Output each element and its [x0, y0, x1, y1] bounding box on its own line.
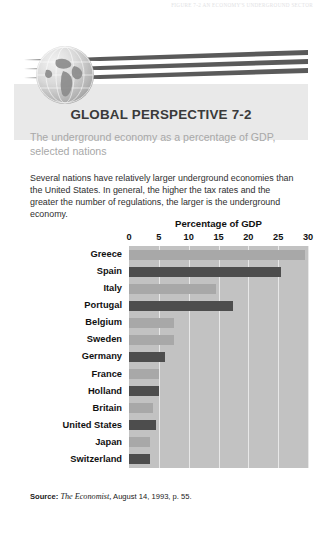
bar-label-spain: Spain	[14, 263, 122, 280]
bar-row: Belgium	[14, 314, 308, 331]
bar-label-greece: Greece	[14, 246, 122, 263]
bar-row: United States	[14, 417, 308, 434]
globe-icon	[36, 46, 94, 104]
page-title: GLOBAL PERSPECTIVE 7-2	[14, 107, 308, 122]
bar-italy	[129, 284, 216, 294]
bar-chart: Percentage of GDP 051015202530 GreeceSpa…	[14, 218, 308, 486]
bar-label-holland: Holland	[14, 383, 122, 400]
bar-britain	[129, 403, 153, 413]
bar-france	[129, 369, 159, 379]
bar-label-italy: Italy	[14, 280, 122, 297]
bar-row: Italy	[14, 280, 308, 297]
bar-belgium	[129, 318, 174, 328]
bar-united-states	[129, 420, 156, 430]
bar-greece	[129, 250, 305, 260]
gridline-30	[308, 246, 309, 468]
bar-japan	[129, 437, 150, 447]
bar-germany	[129, 352, 165, 362]
bar-sweden	[129, 335, 174, 345]
bar-label-germany: Germany	[14, 348, 122, 365]
source-label: Source:	[30, 492, 58, 501]
bar-label-switzerland: Switzerland	[14, 451, 122, 468]
bar-row: Portugal	[14, 297, 308, 314]
bar-holland	[129, 386, 159, 396]
bar-label-france: France	[14, 366, 122, 383]
bar-portugal	[129, 301, 233, 311]
bar-label-japan: Japan	[14, 434, 122, 451]
bar-row: France	[14, 366, 308, 383]
bar-row: Switzerland	[14, 451, 308, 468]
bar-label-united-states: United States	[14, 417, 122, 434]
body-paragraph: Several nations have relatively larger u…	[30, 172, 298, 220]
bar-label-sweden: Sweden	[14, 331, 122, 348]
source-line: Source: The Economist, August 14, 1993, …	[30, 492, 300, 501]
source-rest: August 14, 1993, p. 55.	[113, 492, 192, 501]
bar-row: Greece	[14, 246, 308, 263]
bar-spain	[129, 267, 281, 277]
running-head: FIGURE 7-2 AN ECONOMY'S UNDERGROUND SECT…	[0, 0, 321, 10]
bar-row: Germany	[14, 348, 308, 365]
bar-row: Spain	[14, 263, 308, 280]
bar-label-belgium: Belgium	[14, 314, 122, 331]
bar-row: Sweden	[14, 331, 308, 348]
source-publication: The Economist,	[60, 492, 111, 501]
bar-row: Holland	[14, 383, 308, 400]
bar-label-portugal: Portugal	[14, 297, 122, 314]
subtitle: The underground economy as a percentage …	[30, 130, 296, 159]
bar-rows: GreeceSpainItalyPortugalBelgiumSwedenGer…	[14, 218, 308, 440]
bar-switzerland	[129, 454, 150, 464]
bar-row: Britain	[14, 400, 308, 417]
bar-row: Japan	[14, 434, 308, 451]
bar-label-britain: Britain	[14, 400, 122, 417]
